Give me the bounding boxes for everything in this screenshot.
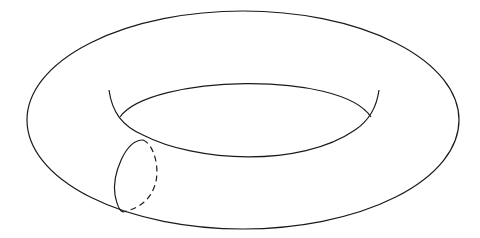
torus-diagram: Torus: [0, 0, 480, 238]
inner-hole-lower: [120, 84, 371, 117]
cross-section-front: [115, 140, 143, 212]
torus-drawing: [0, 0, 480, 238]
outer-ellipse: [27, 11, 459, 229]
inner-hole-upper: [109, 90, 379, 157]
cross-section-back: [123, 140, 157, 212]
